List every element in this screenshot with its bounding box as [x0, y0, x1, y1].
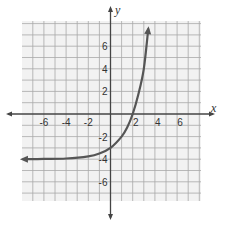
y-tick-label: -6: [99, 177, 108, 188]
x-axis-left-arrow-icon: [6, 112, 12, 117]
y-tick-label: 6: [102, 41, 108, 52]
x-tick-label: -2: [84, 117, 93, 128]
y-tick-label: 2: [102, 86, 108, 97]
x-tick-label: 4: [155, 117, 161, 128]
x-tick-label: -4: [62, 117, 71, 128]
grid-background: [22, 21, 201, 201]
exponential-graph: -6-4-2246642-2-4-6 x y: [0, 0, 225, 227]
y-axis-label: y: [114, 3, 121, 17]
x-tick-label: 2: [133, 117, 139, 128]
y-tick-label: -2: [99, 132, 108, 143]
x-tick-label: -6: [39, 117, 48, 128]
y-tick-label: 4: [102, 64, 108, 75]
x-tick-label: 6: [177, 117, 183, 128]
y-tick-label: -4: [99, 154, 108, 165]
x-axis-label: x: [210, 101, 217, 115]
y-axis-up-arrow-icon: [108, 6, 113, 12]
y-axis-down-arrow-icon: [108, 214, 113, 220]
